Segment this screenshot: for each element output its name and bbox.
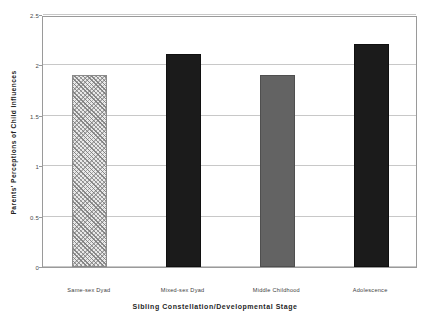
y-tick-mark <box>39 116 42 117</box>
bar <box>354 44 389 267</box>
bar-chart-figure: 00.511.522.5 Same-sex DyadMixed-sex Dyad… <box>0 0 430 318</box>
y-tick-mark <box>39 15 42 16</box>
y-axis-title: Parents' Perceptions of Child Influences <box>6 16 20 268</box>
bar <box>72 75 107 267</box>
y-tick-mark <box>39 267 42 268</box>
x-tick-label: Adolescence <box>310 288 430 294</box>
y-tick-mark <box>39 65 42 66</box>
y-tick-mark <box>39 166 42 167</box>
bar <box>260 75 295 267</box>
plot-area <box>42 16 417 268</box>
x-axis-tick-labels: Same-sex DyadMixed-sex DyadMiddle Childh… <box>0 288 430 300</box>
x-axis-title: Sibling Constellation/Developmental Stag… <box>0 303 430 310</box>
y-axis-tick-marks <box>39 16 43 268</box>
gridline <box>43 14 416 15</box>
bar <box>166 54 201 267</box>
y-axis-title-text: Parents' Perceptions of Child Influences <box>10 70 17 214</box>
y-tick-mark <box>39 217 42 218</box>
